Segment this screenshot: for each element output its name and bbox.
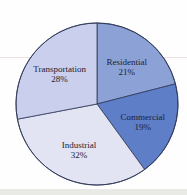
scanned-figure-page: Residential21%Commercial19%Industrial32%… [0, 0, 187, 195]
scan-artifact-band [0, 189, 187, 195]
pie-chart: Residential21%Commercial19%Industrial32%… [0, 0, 187, 195]
